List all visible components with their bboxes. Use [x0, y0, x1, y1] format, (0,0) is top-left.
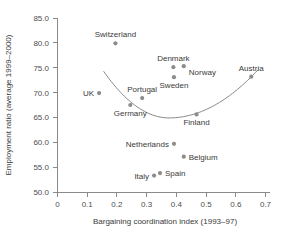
- x-axis-title: Bargaining coordination index (1993–97): [93, 217, 237, 226]
- data-point-labels: SwitzerlandUKGermanyPortugalItalySpainDe…: [83, 30, 264, 180]
- y-tick-label: 85.0: [33, 14, 49, 23]
- data-point: [158, 171, 162, 175]
- x-tick-label: 0.3: [141, 200, 153, 209]
- data-point: [97, 91, 101, 95]
- data-point: [140, 96, 144, 100]
- x-tick-label: 0.7: [260, 200, 272, 209]
- point-label-norway: Norway: [189, 68, 216, 77]
- x-tick-label: 0.1: [82, 200, 94, 209]
- y-tick-label: 70.0: [33, 89, 49, 98]
- y-tick-label: 50.0: [33, 188, 49, 197]
- chart-canvas: 50.055.060.065.070.075.080.085.0 00.10.2…: [0, 0, 281, 234]
- point-label-spain: Spain: [165, 169, 185, 178]
- data-point: [172, 75, 176, 79]
- point-label-belgium: Belgium: [189, 153, 218, 162]
- data-point: [172, 142, 176, 146]
- x-tick-label: 0.2: [111, 200, 123, 209]
- point-label-sweden: Sweden: [160, 81, 189, 90]
- data-point: [182, 155, 186, 159]
- point-label-finland: Finland: [183, 118, 209, 127]
- scatter-chart: 50.055.060.065.070.075.080.085.0 00.10.2…: [0, 0, 281, 234]
- point-label-switzerland: Switzerland: [95, 30, 136, 39]
- data-point: [194, 112, 198, 116]
- x-tick-label: 0: [55, 200, 60, 209]
- data-point: [128, 103, 132, 107]
- point-label-italy: Italy: [134, 172, 149, 181]
- data-point: [152, 173, 156, 177]
- x-tick-label: 0.6: [230, 200, 242, 209]
- y-tick-label: 75.0: [33, 64, 49, 73]
- data-point: [182, 64, 186, 68]
- x-tick-label: 0.5: [201, 200, 213, 209]
- x-axis-ticks: 00.10.20.30.40.50.60.7: [55, 193, 271, 210]
- y-tick-label: 55.0: [33, 163, 49, 172]
- data-point: [113, 41, 117, 45]
- point-label-germany: Germany: [114, 109, 147, 118]
- axes: [58, 18, 271, 193]
- point-label-denmark: Denmark: [157, 54, 190, 63]
- y-tick-label: 60.0: [33, 138, 49, 147]
- y-tick-label: 65.0: [33, 113, 49, 122]
- point-label-uk: UK: [83, 89, 95, 98]
- y-axis-title: Employment ratio (average 1999–2000): [4, 34, 13, 175]
- y-axis-ticks: 50.055.060.065.070.075.080.085.0: [33, 14, 57, 197]
- point-label-portugal: Portugal: [127, 85, 157, 94]
- data-point: [171, 65, 175, 69]
- data-point: [249, 75, 253, 79]
- point-label-netherlands: Netherlands: [126, 140, 169, 149]
- x-tick-label: 0.4: [171, 200, 183, 209]
- y-tick-label: 80.0: [33, 39, 49, 48]
- point-label-austria: Austria: [239, 64, 264, 73]
